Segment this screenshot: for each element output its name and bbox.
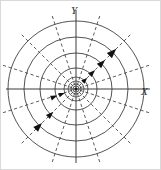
- radial-ray: [21, 92, 73, 144]
- radial-ray: [52, 15, 75, 85]
- radial-ray: [21, 34, 73, 86]
- plot-canvas: X Y: [0, 0, 161, 170]
- radial-ray: [80, 90, 150, 113]
- polar-phase-portrait-figure: X Y: [0, 0, 161, 170]
- radial-ray: [77, 93, 100, 163]
- radial-ray: [80, 65, 150, 88]
- y-axis-label: Y: [71, 4, 79, 16]
- radial-ray: [77, 15, 100, 85]
- radial-ray: [79, 92, 131, 144]
- origin-point-marker: [74, 87, 77, 90]
- x-axis-label: X: [140, 85, 149, 97]
- radial-ray: [52, 93, 75, 163]
- radial-ray: [2, 65, 72, 88]
